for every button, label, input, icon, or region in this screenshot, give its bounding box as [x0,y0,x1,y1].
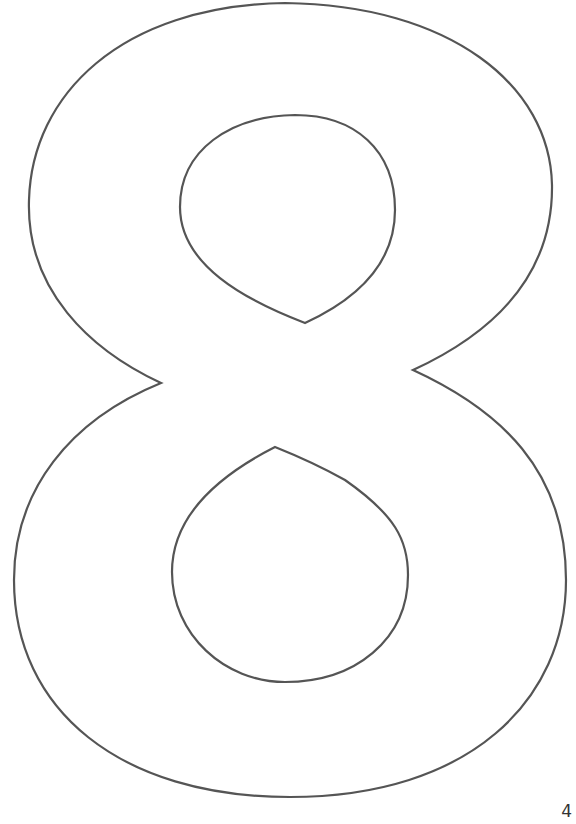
page-number: 4 [561,803,572,820]
numeral-eight-outline [0,0,576,824]
